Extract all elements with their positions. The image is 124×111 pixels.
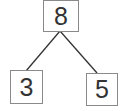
connector-right — [60, 31, 97, 73]
part-value-left: 3 — [20, 75, 34, 100]
part-box-right: 5 — [86, 73, 118, 106]
whole-box: 8 — [43, 0, 79, 32]
part-value-right: 5 — [95, 77, 109, 102]
part-box-left: 3 — [10, 70, 43, 104]
whole-value: 8 — [54, 4, 68, 29]
connector-left — [26, 31, 60, 71]
